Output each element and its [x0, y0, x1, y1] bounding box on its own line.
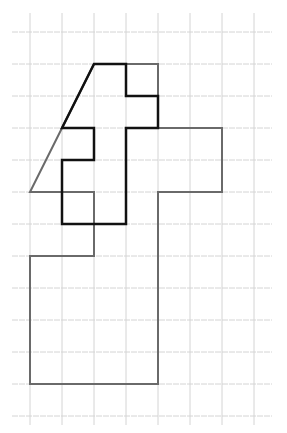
diagram-svg [0, 0, 287, 433]
black-figure [62, 64, 158, 224]
grid-lines [12, 13, 272, 425]
grid-diagram [0, 0, 287, 433]
